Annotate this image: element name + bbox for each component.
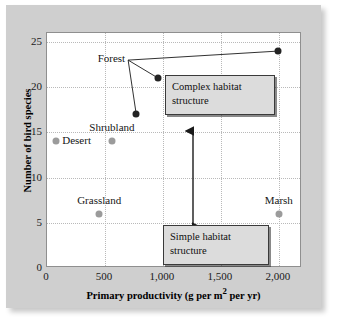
x-tick-label: 1,000 [150,270,175,282]
data-point-forest-2 [155,75,162,82]
x-axis-title: Primary productivity (g per m2 per yr) [46,286,301,301]
figure-container: 0510152025 Number of bird species Desert… [0,0,337,326]
point-label-grassland: Grassland [77,194,121,206]
data-point-desert [53,138,60,145]
leader-line-forest-2 [128,60,158,78]
gridline-vertical [105,33,106,266]
point-label-marsh: Marsh [265,194,293,206]
x-axis-ticks: 05001,0001,5002,000 [46,270,301,286]
y-tick-label: 20 [31,80,42,92]
x-tick-label: 2,000 [265,270,290,282]
y-tick-label: 0 [37,261,43,273]
x-tick-label: 0 [43,270,49,282]
data-point-marsh [275,210,282,217]
complex-habitat-line2: structure [172,94,268,108]
leader-line-forest-3 [128,51,278,60]
point-label-shrubland: Shrubland [89,121,134,133]
simple-habitat-callout: Simple habitat structure [163,225,269,265]
y-axis-title: Number of bird species [22,51,33,231]
y-tick-label: 10 [31,171,42,183]
point-label-forest: Forest [98,52,126,64]
simple-habitat-line2: structure [170,244,262,258]
data-point-shrubland [108,138,115,145]
gridline-horizontal [47,132,300,133]
x-tick-label: 500 [96,270,113,282]
data-point-grassland [96,210,103,217]
y-tick-label: 25 [31,35,42,47]
x-tick-label: 1,500 [207,270,232,282]
data-point-forest-1 [133,111,140,118]
gridline-horizontal [47,223,300,224]
y-tick-label: 5 [37,216,43,228]
plot-area: DesertShrublandGrasslandMarshForest Comp… [46,32,301,267]
simple-habitat-line1: Simple habitat [170,230,262,244]
point-label-desert: Desert [62,134,91,146]
data-point-forest-3 [275,48,282,55]
gridline-vertical [279,33,280,266]
y-tick-label: 15 [31,125,42,137]
gridline-horizontal [47,42,300,43]
gridline-horizontal [47,178,300,179]
complex-habitat-callout: Complex habitat structure [165,75,275,115]
complex-habitat-line1: Complex habitat [172,80,268,94]
